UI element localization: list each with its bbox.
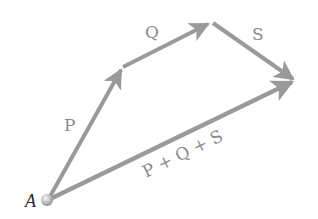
- vector-q-arrow: [123, 24, 208, 67]
- vector-s: S: [213, 23, 293, 79]
- vector-q-label: Q: [145, 22, 159, 42]
- origin-ball-icon: [41, 194, 53, 206]
- origin-point: A: [24, 191, 53, 211]
- vector-q: Q: [123, 22, 208, 67]
- vector-addition-diagram: P Q S P + Q + S A: [0, 0, 318, 219]
- vector-resultant: P + Q + S: [50, 82, 292, 199]
- vector-resultant-arrow: [50, 82, 292, 199]
- vector-p-label: P: [64, 115, 75, 135]
- vector-s-label: S: [252, 24, 264, 44]
- origin-label: A: [24, 191, 37, 211]
